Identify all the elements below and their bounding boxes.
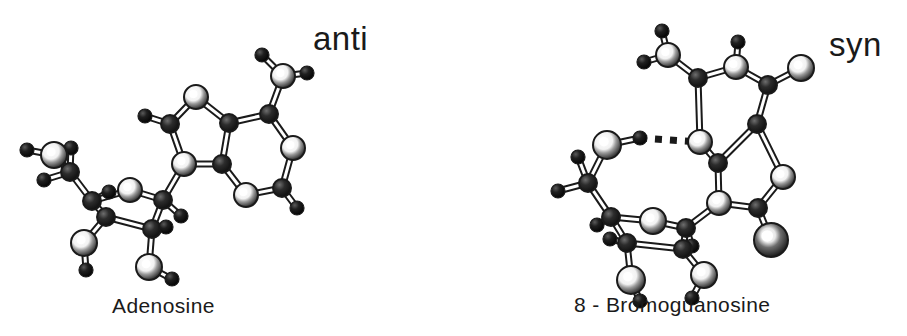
atom-sphere-brg-C8: [749, 199, 767, 217]
atom-sphere-brg-C3p: [618, 234, 636, 252]
bromoguanosine-structure-diagram: [0, 0, 907, 336]
atom-highlight: [794, 60, 803, 69]
bromoguanosine-bonds: [558, 31, 801, 301]
atom-highlight: [776, 170, 784, 178]
atom-highlight: [712, 196, 720, 204]
atom-sphere-brg-N1H: [637, 55, 651, 69]
atom-sphere-brg-C4p: [602, 208, 620, 226]
atom-sphere-brg-C5pHb: [551, 184, 565, 198]
atom-highlight: [646, 213, 655, 222]
atom-highlight: [697, 267, 706, 276]
molecule-caption-adenosine: Adenosine: [112, 294, 215, 318]
conformation-label-syn: syn: [829, 26, 882, 64]
atom-highlight: [661, 48, 669, 56]
atom-sphere-brg-C1p: [677, 219, 695, 237]
atom-sphere-brg-C2p: [674, 240, 692, 258]
atom-sphere-brg-HO5p: [633, 131, 647, 145]
atom-sphere-brg-C5pHa: [571, 150, 585, 164]
atom-sphere-brg-N2H: [731, 35, 745, 49]
atom-sphere-brg-O6: [655, 24, 669, 38]
atom-sphere-brg-C3pH: [603, 232, 617, 246]
atom-sphere-brg-N1: [689, 69, 707, 87]
atom-highlight: [729, 60, 737, 68]
molecule-caption-bromoguanosine: 8 - Bromoguanosine: [574, 293, 770, 317]
atom-sphere-brg-C4: [709, 154, 727, 172]
atom-highlight: [623, 272, 633, 282]
atom-sphere-brg-C5p: [579, 174, 597, 192]
atom-highlight: [693, 135, 701, 143]
atom-sphere-brg-C4pH: [590, 218, 604, 232]
molecular-conformation-figure: anti syn Adenosine 8 - Bromoguanosine: [0, 0, 907, 336]
atom-highlight: [761, 230, 773, 242]
atom-sphere-brg-N2: [759, 76, 777, 94]
atom-sphere-brg-C5: [748, 115, 766, 133]
conformation-label-anti: anti: [313, 20, 368, 58]
atom-highlight: [599, 137, 609, 147]
